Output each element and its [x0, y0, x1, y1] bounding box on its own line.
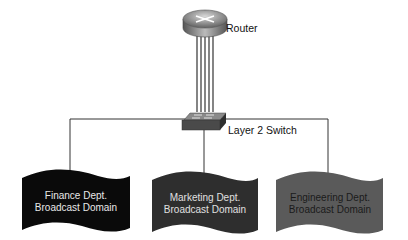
- finance-domain-label: Finance Dept. Broadcast Domain: [22, 190, 130, 214]
- engineering-domain-label: Engineering Dept. Broadcast Domain: [276, 192, 384, 216]
- router-label: Router: [226, 22, 258, 34]
- trunk-links: [197, 36, 213, 112]
- switch-icon: [182, 113, 226, 130]
- marketing-domain-label: Marketing Dept. Broadcast Domain: [151, 192, 259, 216]
- router-icon: [183, 10, 227, 37]
- switch-label: Layer 2 Switch: [228, 124, 297, 136]
